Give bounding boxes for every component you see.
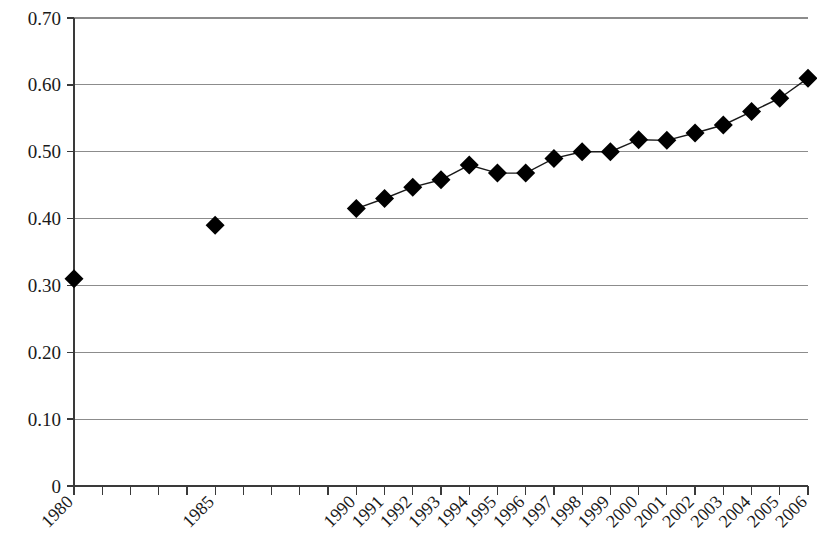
data-point-marker <box>770 89 789 108</box>
y-tick-label-0.30: 0.30 <box>28 275 61 296</box>
y-tick-label-0.70: 0.70 <box>28 8 61 29</box>
y-tick-label-0: 0 <box>52 476 62 497</box>
data-point-marker <box>375 189 394 208</box>
y-tick-label-0.10: 0.10 <box>28 409 61 430</box>
data-point-marker <box>629 130 648 149</box>
x-tick-label-1985: 1985 <box>178 492 218 532</box>
data-point-marker <box>488 164 507 183</box>
data-point-marker <box>742 102 761 121</box>
data-point-marker <box>432 170 451 189</box>
data-point-marker <box>516 164 535 183</box>
data-point-marker <box>573 142 592 161</box>
y-tick-label-0.50: 0.50 <box>28 141 61 162</box>
y-tick-label-0.20: 0.20 <box>28 342 61 363</box>
data-point-marker <box>714 115 733 134</box>
line-chart: 00.100.200.300.400.500.600.70 1980198519… <box>0 0 817 538</box>
x-axis-tick-labels: 1980198519901991199219931994199519961997… <box>37 492 811 532</box>
x-tick-label-2006: 2006 <box>771 492 811 532</box>
y-tick-label-0.40: 0.40 <box>28 208 61 229</box>
data-point-marker <box>601 142 620 161</box>
x-axis <box>74 486 808 495</box>
y-tick-label-0.60: 0.60 <box>28 74 61 95</box>
data-point-marker <box>460 156 479 175</box>
data-point-marker <box>403 178 422 197</box>
data-point-marker <box>686 123 705 142</box>
y-axis-tick-labels: 00.100.200.300.400.500.600.70 <box>28 8 61 497</box>
data-point-markers <box>65 69 817 289</box>
data-point-marker <box>657 131 676 150</box>
data-point-marker <box>347 199 366 218</box>
x-tick-label-1980: 1980 <box>37 492 77 532</box>
chart-container: 00.100.200.300.400.500.600.70 1980198519… <box>0 0 817 538</box>
gridlines-group <box>74 18 808 419</box>
y-axis <box>67 18 74 486</box>
